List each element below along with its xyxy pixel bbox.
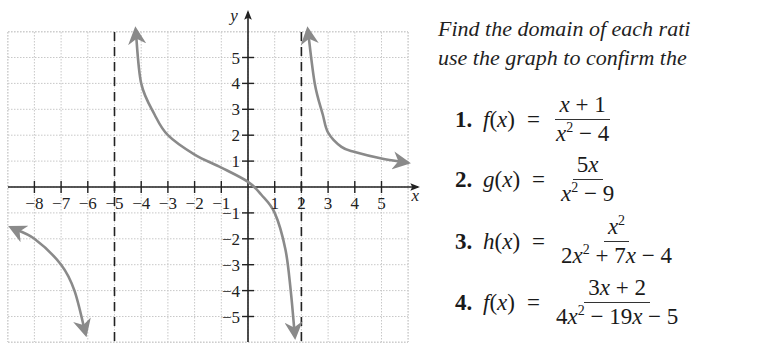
denominator: x2 − 4 <box>552 120 613 147</box>
x-tick-label: −2 <box>186 194 204 213</box>
y-tick-label: −5 <box>222 308 240 327</box>
problem-1: 1.f(x)=x + 1x2 − 4 <box>455 92 613 147</box>
numerator: x + 1 <box>555 92 609 120</box>
problem-4: 4.f(x)=3x + 24x2 − 19x − 5 <box>455 275 682 330</box>
rational-function-graph: −8−7−6−5−4−3−2−112345−5−4−3−2−112345xy <box>0 0 420 347</box>
x-tick-label: 5 <box>377 194 386 213</box>
fraction: 5xx2 − 9 <box>557 152 618 207</box>
function-name: f(x) <box>483 290 515 316</box>
fraction: x22x2 + 7x − 4 <box>557 214 676 269</box>
function-name: g(x) <box>483 167 520 193</box>
y-tick-label: −3 <box>222 256 240 275</box>
problem-number: 3. <box>455 229 477 255</box>
problem-number: 4. <box>455 290 477 316</box>
axes <box>8 12 418 342</box>
y-tick-label: −1 <box>222 204 240 223</box>
x-tick-label: 1 <box>270 194 279 213</box>
x-tick-label: −7 <box>52 194 71 213</box>
x-tick-label: −3 <box>159 194 177 213</box>
instruction-line-2: use the graph to confirm the <box>438 43 757 72</box>
denominator: 2x2 + 7x − 4 <box>557 242 676 269</box>
equals-sign: = <box>527 290 540 316</box>
problem-3: 3.h(x)=x22x2 + 7x − 4 <box>455 214 676 269</box>
y-tick-label: 2 <box>232 126 241 145</box>
y-tick-label: −2 <box>222 230 240 249</box>
exercise-panel: Find the domain of each rati use the gra… <box>438 14 757 72</box>
equals-sign: = <box>527 107 540 133</box>
function-curves <box>13 32 405 335</box>
denominator: x2 − 9 <box>557 180 618 207</box>
equals-sign: = <box>532 167 545 193</box>
function-name: f(x) <box>483 107 515 133</box>
numerator: 5x <box>573 152 603 180</box>
curve-middle-branch <box>136 32 295 335</box>
y-tick-label: 4 <box>232 74 241 93</box>
y-tick-label: 3 <box>232 100 241 119</box>
problem-2: 2.g(x)=5xx2 − 9 <box>455 152 618 207</box>
curve-right-branch <box>308 32 405 163</box>
problem-number: 2. <box>455 167 477 193</box>
numerator: x2 <box>604 214 629 242</box>
x-axis-label: x <box>410 186 419 205</box>
fraction: x + 1x2 − 4 <box>552 92 613 147</box>
function-name: h(x) <box>483 229 520 255</box>
tick-labels: −8−7−6−5−4−3−2−112345−5−4−3−2−112345xy <box>25 6 419 327</box>
x-tick-label: −6 <box>79 194 97 213</box>
y-tick-label: −4 <box>222 282 241 301</box>
x-tick-label: 4 <box>351 194 360 213</box>
x-tick-label: −4 <box>132 194 151 213</box>
x-tick-label: 2 <box>297 194 306 213</box>
y-axis-label: y <box>228 6 238 25</box>
problem-number: 1. <box>455 107 477 133</box>
instruction-line-1: Find the domain of each rati <box>438 14 757 43</box>
denominator: 4x2 − 19x − 5 <box>552 303 682 330</box>
numerator: 3x + 2 <box>584 275 650 303</box>
fraction: 3x + 24x2 − 19x − 5 <box>552 275 682 330</box>
x-tick-label: −5 <box>105 194 123 213</box>
x-tick-label: −8 <box>25 194 43 213</box>
y-tick-label: 1 <box>232 152 241 171</box>
x-tick-label: 3 <box>324 194 333 213</box>
equals-sign: = <box>532 229 545 255</box>
y-tick-label: 5 <box>232 49 241 68</box>
